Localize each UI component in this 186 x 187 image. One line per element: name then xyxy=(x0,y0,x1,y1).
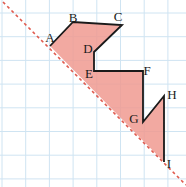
figure-canvas xyxy=(0,0,186,187)
geometry-figure: ABCDEFGHI xyxy=(0,0,186,187)
staircase-polygon-fill xyxy=(50,22,164,162)
